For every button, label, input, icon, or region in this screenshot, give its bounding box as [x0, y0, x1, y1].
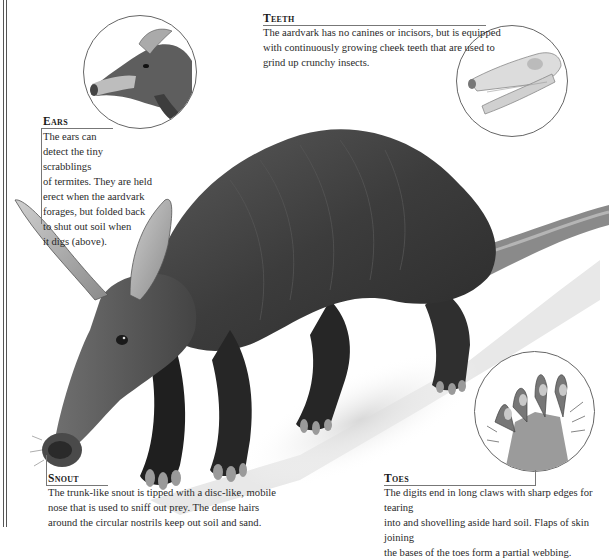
- teeth-leader-rule: [263, 25, 486, 26]
- caption-teeth-heading: Teeth: [263, 12, 583, 25]
- caption-ears-heading: Ears: [43, 115, 153, 128]
- caption-teeth: Teeth The aardvark has no canines or inc…: [263, 12, 583, 70]
- caption-ears: Ears The ears can detect the tiny scrabb…: [43, 115, 153, 249]
- snout-leader-rule: [46, 485, 108, 486]
- inset-foot-circle: [474, 351, 595, 472]
- caption-toes-heading: Toes: [384, 472, 609, 485]
- ears-leader-vertical: [41, 128, 42, 224]
- ears-leader-rule: [41, 128, 113, 129]
- front-leg-far: [210, 330, 252, 476]
- toes-leader-vertical: [535, 470, 536, 485]
- caption-snout-heading: Snout: [48, 472, 348, 485]
- caption-teeth-body: The aardvark has no canines or incisors,…: [263, 25, 583, 70]
- caption-toes-body: The digits end in long claws with sharp …: [384, 485, 609, 560]
- caption-snout-body: The trunk-like snout is tipped with a di…: [48, 485, 348, 530]
- inset-head-circle: [83, 15, 197, 129]
- snout-leader-vertical: [46, 455, 47, 485]
- eye: [116, 335, 128, 345]
- caption-snout: Snout The trunk-like snout is tipped wit…: [48, 472, 348, 530]
- toes-leader-rule: [384, 485, 536, 486]
- aardvark-head-icon: [84, 16, 196, 128]
- caption-ears-body: The ears can detect the tiny scrabblings…: [43, 129, 153, 249]
- aardvark-foot-icon: [475, 352, 594, 471]
